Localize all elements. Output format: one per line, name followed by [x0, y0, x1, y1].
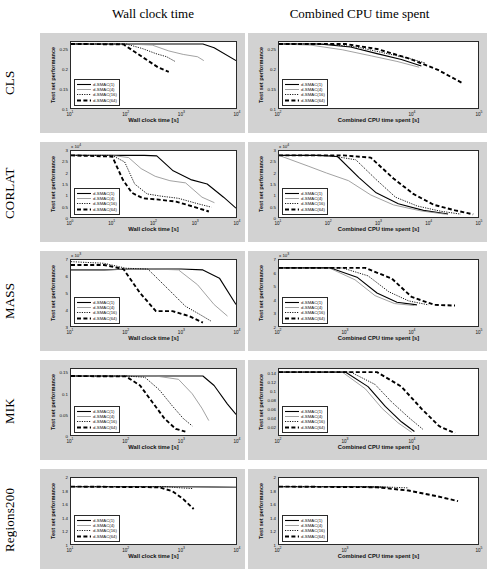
legend-line-icon: [77, 419, 91, 424]
legend-item: d-SMAC(64): [77, 534, 117, 539]
legend-line-icon: [285, 528, 299, 533]
x-tick-label: 102: [274, 328, 281, 335]
legend-line-icon: [285, 419, 299, 424]
x-tick-label: 103: [341, 328, 348, 335]
column-header-wall-clock-time: Wall clock time: [58, 6, 248, 22]
x-tick-label: 103: [178, 546, 185, 553]
x-axis-label: Wall clock time [s]: [70, 117, 237, 123]
legend-label: d-SMAC(64): [93, 534, 117, 539]
y-axis-label: Test set performance: [50, 259, 58, 327]
y-axis-multiplier: x 103: [279, 252, 289, 258]
x-tick-label: 101: [108, 219, 115, 226]
plot-panel-corlat-wall: 00.511.522.53x 104100101102103104Test se…: [40, 142, 245, 242]
legend-label: d-SMAC(64): [93, 316, 117, 321]
legend-label: d-SMAC(64): [301, 98, 325, 103]
legend-line-icon: [77, 316, 91, 321]
x-tick-label: 104: [408, 328, 415, 335]
x-tick-label: 102: [150, 219, 157, 226]
x-axis-label: Combined CPU time spent [s]: [278, 335, 479, 341]
x-tick-label: 102: [122, 546, 129, 553]
y-axis-multiplier: x 103: [71, 252, 81, 258]
y-axis-multiplier: x 104: [279, 143, 289, 149]
plot-panel-regions200-cpu: 11.21.41.61.82102103105Test set performa…: [248, 469, 487, 569]
legend-line-icon: [285, 82, 299, 87]
x-tick-label: 102: [274, 110, 281, 117]
legend-line-icon: [285, 305, 299, 310]
legend-line-icon: [285, 300, 299, 305]
plot-legend: d-SMAC(1)d-SMAC(4)d-SMAC(16)d-SMAC(64): [282, 515, 328, 542]
legend-line-icon: [77, 207, 91, 212]
legend-line-icon: [285, 196, 299, 201]
x-tick-label: 103: [341, 546, 348, 553]
y-axis-label: Test set performance: [258, 150, 266, 218]
x-tick-label: 105: [475, 546, 482, 553]
legend-line-icon: [285, 518, 299, 523]
plot-legend: d-SMAC(1)d-SMAC(4)d-SMAC(16)d-SMAC(64): [74, 297, 120, 324]
legend-line-icon: [77, 87, 91, 92]
legend-line-icon: [77, 300, 91, 305]
x-tick-label: 104: [233, 110, 240, 117]
x-axis-label: Combined CPU time spent [s]: [278, 444, 479, 450]
legend-line-icon: [285, 87, 299, 92]
legend-line-icon: [285, 201, 299, 206]
x-tick-label: 103: [375, 219, 382, 226]
y-axis-label: Test set performance: [50, 150, 58, 218]
plot-legend: d-SMAC(1)d-SMAC(4)d-SMAC(16)d-SMAC(64): [282, 79, 328, 106]
legend-label: d-SMAC(64): [301, 534, 325, 539]
y-axis-label: Test set performance: [50, 368, 58, 436]
x-tick-label: 105: [475, 328, 482, 335]
x-tick-label: 101: [66, 110, 73, 117]
plot-panel-cls-wall: 0.10.150.20.25101102103104Test set perfo…: [40, 33, 245, 133]
x-tick-label: 104: [233, 328, 240, 335]
figure-grid: Wall clock time Combined CPU time spent …: [0, 0, 491, 573]
legend-line-icon: [77, 305, 91, 310]
x-axis-label: Wall clock time [s]: [70, 444, 237, 450]
x-axis-label: Combined CPU time spent [s]: [278, 117, 479, 123]
legend-line-icon: [285, 534, 299, 539]
legend-item: d-SMAC(64): [285, 316, 325, 321]
plot-legend: d-SMAC(1)d-SMAC(4)d-SMAC(16)d-SMAC(64): [74, 79, 120, 106]
x-tick-label: 100: [66, 219, 73, 226]
x-axis-label: Combined CPU time spent [s]: [278, 553, 479, 559]
x-tick-label: 104: [408, 110, 415, 117]
x-tick-label: 102: [274, 546, 281, 553]
legend-line-icon: [285, 98, 299, 103]
y-axis-label: Test set performance: [258, 477, 266, 545]
legend-item: d-SMAC(64): [285, 425, 325, 430]
legend-line-icon: [77, 191, 91, 196]
x-tick-label: 104: [233, 437, 240, 444]
x-tick-label: 104: [233, 219, 240, 226]
x-tick-label: 103: [341, 437, 348, 444]
y-axis-label: Test set performance: [258, 368, 266, 436]
x-axis-label: Wall clock time [s]: [70, 553, 237, 559]
legend-line-icon: [285, 409, 299, 414]
legend-line-icon: [77, 310, 91, 315]
x-tick-label: 101: [274, 219, 281, 226]
legend-label: d-SMAC(64): [93, 98, 117, 103]
legend-line-icon: [285, 523, 299, 528]
x-tick-label: 103: [178, 110, 185, 117]
legend-item: d-SMAC(64): [77, 207, 117, 212]
legend-line-icon: [285, 92, 299, 97]
legend-item: d-SMAC(64): [77, 316, 117, 321]
legend-label: d-SMAC(64): [93, 425, 117, 430]
legend-line-icon: [77, 523, 91, 528]
x-tick-label: 104: [425, 219, 432, 226]
legend-line-icon: [77, 409, 91, 414]
plot-legend: d-SMAC(1)d-SMAC(4)d-SMAC(16)d-SMAC(64): [74, 188, 120, 215]
x-axis-label: Wall clock time [s]: [70, 226, 237, 232]
plot-panel-corlat-cpu: 00.511.522.53x 104101102103104105Test se…: [248, 142, 487, 242]
legend-line-icon: [77, 82, 91, 87]
x-tick-label: 104: [408, 437, 415, 444]
legend-line-icon: [77, 425, 91, 430]
row-label-regions200: Regions200: [2, 472, 26, 568]
legend-line-icon: [77, 534, 91, 539]
legend-line-icon: [77, 92, 91, 97]
row-label-cls: CLS: [2, 40, 26, 126]
legend-item: d-SMAC(64): [285, 534, 325, 539]
legend-item: d-SMAC(64): [285, 98, 325, 103]
legend-line-icon: [77, 98, 91, 103]
row-label-mik: MIK: [2, 368, 26, 454]
plot-panel-mik-cpu: 0.020.040.060.080.10.120.14102103104Test…: [248, 360, 487, 460]
legend-item: d-SMAC(64): [77, 425, 117, 430]
